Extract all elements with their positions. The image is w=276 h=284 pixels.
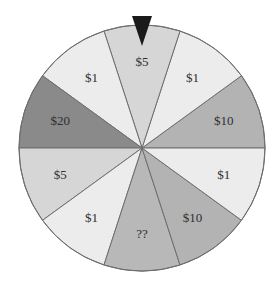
slice-label: $1	[217, 167, 230, 182]
slice-label: $1	[85, 210, 98, 225]
slice-label: $5	[136, 54, 149, 69]
slice-label: $10	[183, 210, 203, 225]
slice-label: $5	[54, 167, 67, 182]
prize-wheel[interactable]: $10$1$5$1$20$5$1??$10$1	[19, 25, 265, 271]
slice-label: $20	[50, 113, 70, 128]
slice-label: $10	[214, 113, 234, 128]
slice-label: $1	[186, 70, 199, 85]
slice-label: ??	[136, 226, 148, 241]
slice-label: $1	[85, 70, 98, 85]
prize-wheel-canvas: $10$1$5$1$20$5$1??$10$1	[0, 0, 276, 284]
